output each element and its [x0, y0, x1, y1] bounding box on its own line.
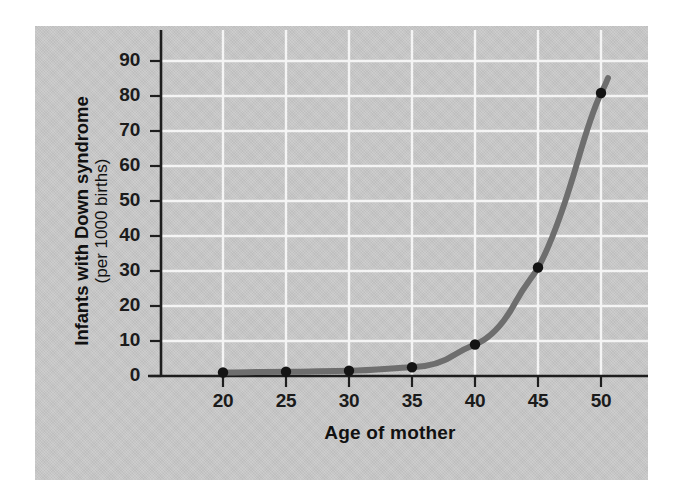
- x-tick-label-45: 45: [516, 390, 560, 412]
- y-axis-title-main: Infants with Down syndrome: [71, 56, 92, 386]
- x-axis-ticks: [223, 376, 601, 387]
- data-point: [218, 367, 228, 377]
- x-tick-label-50: 50: [579, 390, 623, 412]
- data-point: [344, 366, 354, 376]
- data-point: [533, 262, 543, 272]
- x-tick-label-30: 30: [327, 390, 371, 412]
- x-tick-label-20: 20: [201, 390, 245, 412]
- y-axis-ticks: [150, 61, 161, 376]
- x-axis-title: Age of mother: [220, 422, 560, 444]
- vertical-gridlines: [223, 30, 601, 375]
- x-tick-label-40: 40: [453, 390, 497, 412]
- data-point: [281, 367, 291, 377]
- data-point: [407, 362, 417, 372]
- y-axis-title: Infants with Down syndrome (per 1000 bir…: [71, 56, 121, 386]
- data-point: [470, 339, 480, 349]
- x-tick-label-25: 25: [264, 390, 308, 412]
- y-axis-title-units: (per 1000 births): [92, 56, 112, 386]
- horizontal-gridlines: [161, 61, 648, 341]
- x-tick-label-35: 35: [390, 390, 434, 412]
- data-series-line: [223, 78, 608, 373]
- chart-figure: 0 10 20 30 40 50 60 70 80 90 20 25 30 35…: [0, 0, 682, 497]
- data-point: [596, 88, 606, 98]
